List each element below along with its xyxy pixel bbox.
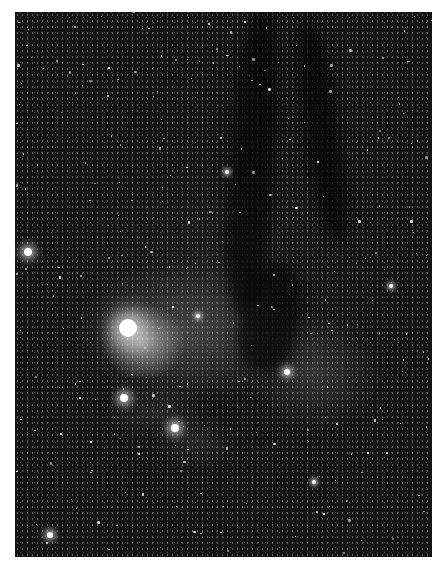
star: [404, 30, 405, 31]
star: [220, 137, 221, 138]
star: [426, 426, 427, 427]
star: [330, 64, 333, 67]
star: [238, 381, 239, 382]
star: [361, 472, 362, 473]
star: [61, 112, 62, 113]
star: [89, 200, 90, 201]
star: [144, 347, 145, 348]
star: [159, 147, 162, 150]
star: [394, 339, 395, 340]
star: [343, 552, 344, 553]
star: [392, 538, 393, 539]
star: [108, 549, 109, 550]
star: [295, 536, 296, 537]
nebula-photograph: [15, 12, 432, 557]
star: [24, 248, 32, 256]
star: [379, 332, 380, 333]
star: [90, 441, 91, 442]
star: [188, 221, 191, 224]
star: [242, 381, 243, 382]
star: [80, 275, 81, 276]
star: [25, 268, 26, 269]
star: [375, 252, 376, 253]
star: [358, 220, 361, 223]
star: [418, 495, 419, 496]
star: [125, 492, 126, 493]
star: [46, 542, 47, 543]
star-field-grain: [15, 12, 432, 557]
star: [382, 57, 383, 58]
star: [16, 273, 17, 274]
star: [323, 513, 324, 514]
star: [120, 394, 128, 402]
star: [56, 60, 57, 61]
star: [273, 443, 276, 446]
star: [123, 388, 124, 389]
star: [59, 387, 60, 388]
star: [257, 305, 258, 306]
star: [312, 480, 316, 484]
star: [108, 257, 109, 258]
star: [431, 20, 432, 21]
star: [227, 550, 228, 551]
star: [246, 503, 247, 504]
star: [120, 144, 121, 145]
star: [264, 70, 265, 71]
star: [108, 67, 109, 68]
star: [389, 284, 393, 288]
star: [53, 295, 54, 296]
star: [403, 113, 404, 114]
star: [37, 164, 38, 165]
star: [196, 314, 200, 318]
star: [410, 220, 413, 223]
star: [97, 521, 100, 524]
star: [31, 57, 32, 58]
star: [117, 79, 118, 80]
star: [171, 424, 179, 432]
star: [168, 405, 171, 408]
star: [183, 426, 184, 427]
star: [380, 407, 381, 408]
star: [213, 62, 214, 63]
star: [225, 170, 229, 174]
star: [233, 322, 234, 323]
star: [406, 333, 407, 334]
star: [328, 323, 329, 324]
star: [152, 394, 155, 397]
star: [138, 453, 139, 454]
star: [79, 397, 80, 398]
star: [349, 49, 352, 52]
star: [145, 246, 146, 247]
star: [331, 330, 332, 331]
star: [216, 48, 217, 49]
star: [284, 369, 290, 375]
star: [379, 130, 380, 131]
star: [384, 269, 385, 270]
star: [425, 156, 428, 159]
star: [367, 452, 368, 453]
star: [316, 511, 317, 512]
star: [244, 378, 245, 379]
star: [428, 358, 429, 359]
star: [336, 423, 337, 424]
star: [75, 383, 76, 384]
star: [365, 258, 366, 259]
star: [23, 153, 24, 154]
star: [142, 493, 145, 496]
star: [379, 205, 380, 206]
star: [16, 471, 17, 472]
star: [180, 470, 181, 471]
star: [408, 61, 409, 62]
star: [273, 309, 274, 310]
star: [317, 161, 318, 162]
star: [60, 433, 61, 434]
star: [17, 64, 20, 67]
star: [308, 317, 309, 318]
star: [74, 26, 75, 27]
star: [244, 21, 245, 22]
star: [252, 171, 255, 174]
star: [82, 64, 83, 65]
star: [58, 267, 59, 268]
star: [351, 453, 352, 454]
star: [329, 90, 332, 93]
